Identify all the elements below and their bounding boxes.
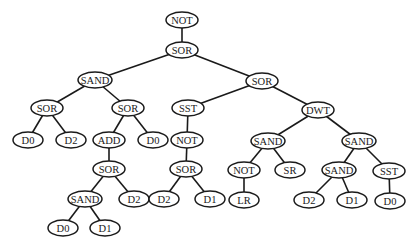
tree-node-sst: SST — [172, 100, 204, 116]
node-label: LR — [237, 195, 250, 206]
tree-node-dwt: DWT — [302, 102, 334, 118]
node-label: SST — [179, 103, 198, 114]
tree-node-sand: SAND — [78, 72, 112, 88]
node-label: D1 — [346, 195, 359, 206]
tree-node-d2: D2 — [149, 191, 179, 207]
node-label: SAND — [81, 75, 110, 86]
tree-node-d0: D0 — [13, 132, 43, 148]
tree-node-sand: SAND — [251, 133, 285, 149]
tree-node-sand: SAND — [68, 191, 102, 207]
tree-node-sor: SOR — [166, 42, 198, 58]
tree-node-lr: LR — [229, 192, 259, 208]
tree-node-not: NOT — [228, 162, 260, 178]
tree-node-sst: SST — [373, 163, 405, 179]
expression-tree-diagram: NOTSORSANDSORSORSORSSTDWTD0D2ADDD0NOTSAN… — [0, 0, 416, 252]
tree-node-d0: D0 — [138, 132, 168, 148]
tree-nodes: NOTSORSANDSORSORSORSSTDWTD0D2ADDD0NOTSAN… — [13, 12, 405, 236]
node-label: ADD — [98, 135, 121, 146]
node-label: D2 — [303, 195, 316, 206]
tree-node-sr: SR — [275, 162, 305, 178]
node-label: SOR — [37, 103, 57, 114]
tree-node-d1: D1 — [195, 191, 225, 207]
node-label: SAND — [254, 136, 283, 147]
node-label: D0 — [384, 196, 397, 207]
tree-node-sor: SOR — [31, 100, 63, 116]
node-label: D0 — [147, 135, 160, 146]
node-label: SST — [380, 166, 399, 177]
tree-node-not: NOT — [166, 12, 198, 28]
tree-node-d2: D2 — [119, 191, 149, 207]
node-label: D0 — [22, 135, 35, 146]
node-label: DWT — [306, 105, 330, 116]
node-label: D2 — [158, 194, 171, 205]
node-label: SOR — [99, 164, 119, 175]
node-label: SR — [284, 165, 297, 176]
node-label: SOR — [252, 76, 272, 87]
node-label: D2 — [128, 194, 141, 205]
node-label: SAND — [345, 136, 374, 147]
node-label: SOR — [172, 45, 192, 56]
tree-node-d0: D0 — [375, 193, 405, 209]
node-label: D0 — [57, 223, 70, 234]
tree-node-add: ADD — [93, 132, 125, 148]
node-label: SOR — [176, 164, 196, 175]
tree-node-sand: SAND — [342, 133, 376, 149]
node-label: NOT — [233, 165, 255, 176]
tree-node-sor: SOR — [112, 100, 144, 116]
node-label: SOR — [118, 103, 138, 114]
tree-node-d2: D2 — [294, 192, 324, 208]
node-label: NOT — [176, 135, 198, 146]
tree-node-sor: SOR — [93, 161, 125, 177]
tree-node-sor: SOR — [246, 73, 278, 89]
tree-node-d1: D1 — [90, 220, 120, 236]
tree-node-sor: SOR — [170, 161, 202, 177]
node-label: D2 — [65, 135, 78, 146]
node-label: SAND — [325, 165, 354, 176]
tree-node-not: NOT — [171, 132, 203, 148]
node-label: NOT — [171, 15, 193, 26]
node-label: D1 — [99, 223, 112, 234]
node-label: SAND — [71, 194, 100, 205]
tree-node-d0: D0 — [48, 220, 78, 236]
node-label: D1 — [204, 194, 217, 205]
tree-node-d2: D2 — [56, 132, 86, 148]
tree-node-d1: D1 — [337, 192, 367, 208]
tree-node-sand: SAND — [322, 162, 356, 178]
